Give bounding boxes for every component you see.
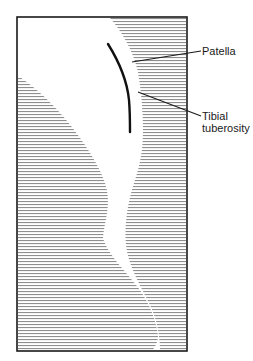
tibial-tuberosity-label: Tibial tuberosity [202, 110, 252, 134]
patella-curve [108, 44, 130, 132]
tibial-tuberosity-label-line1: Tibial [202, 110, 252, 122]
hatched-background [18, 18, 187, 351]
tibial-tuberosity-label-line2: tuberosity [202, 122, 252, 134]
patella-label: Patella [202, 45, 236, 57]
